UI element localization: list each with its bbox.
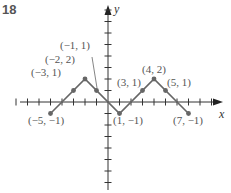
graph-point — [94, 88, 99, 93]
label-point-m3-1: (−3, 1) — [31, 66, 61, 79]
label-point-m5-m1: (−5, −1) — [28, 114, 65, 127]
graph-point — [152, 77, 157, 82]
y-axis: y — [105, 2, 121, 190]
label-point-1-m1: (1, −1) — [113, 114, 143, 127]
leader-line — [92, 57, 97, 88]
label-point-5-1: (5, 1) — [167, 76, 191, 89]
label-point-7-m1: (7, −1) — [173, 114, 203, 127]
y-axis-label: y — [113, 2, 120, 16]
graph-point — [71, 88, 76, 93]
x-axis-label: x — [218, 107, 225, 121]
graph-point — [163, 88, 168, 93]
graph-point — [140, 88, 145, 93]
graph-figure: 18 x y (−1, 1) (−2, 2) (−3, 1) (−5, −1) … — [0, 0, 231, 193]
label-point-4-2: (4, 2) — [142, 63, 166, 76]
label-point-3-1: (3, 1) — [117, 76, 141, 89]
graph-point — [83, 77, 88, 82]
problem-number: 18 — [2, 2, 16, 17]
label-point-m2-2: (−2, 2) — [45, 53, 75, 66]
label-point-m1-1: (−1, 1) — [60, 39, 90, 52]
x-axis-arrow-icon — [213, 99, 223, 106]
